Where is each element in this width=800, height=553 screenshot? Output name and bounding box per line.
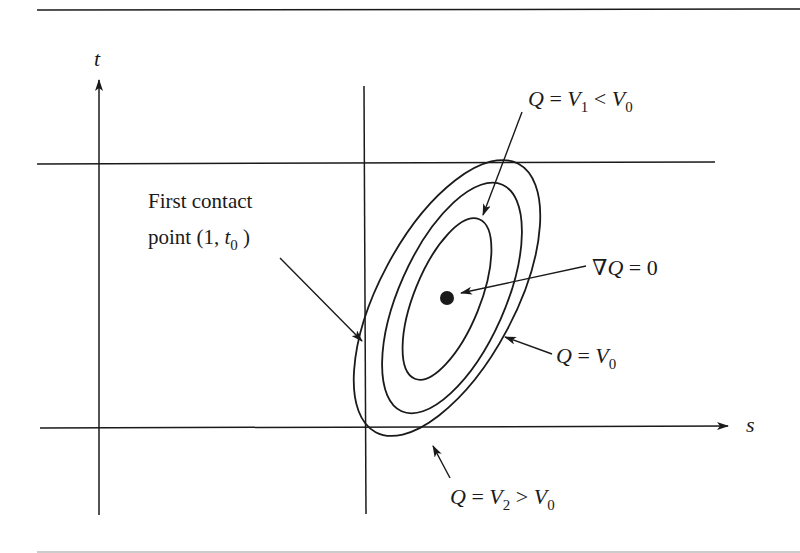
v0-arrow [505, 337, 552, 354]
gradient-zero-label: ∇Q = 0 [592, 255, 658, 280]
vertical-line-s1 [364, 86, 366, 514]
s-axis-label: s [746, 412, 755, 437]
contour-diagram: t s First contact point (1, t0 ) Q = V1 … [0, 0, 800, 553]
t-axis-label: t [94, 46, 101, 71]
v0-contour-label: Q = V0 [556, 343, 616, 372]
top-border-line [37, 9, 800, 10]
first-contact-label-line1: First contact [148, 189, 253, 213]
gradient-arrow [461, 266, 586, 293]
v2-contour-label: Q = V2 > V0 [450, 484, 555, 513]
v1-contour-label: Q = V1 < V0 [528, 86, 633, 115]
s-axis [40, 426, 728, 428]
first-contact-arrow [280, 258, 362, 341]
v2-arrow [433, 446, 450, 478]
first-contact-label-line2: point (1, t0 ) [148, 225, 250, 253]
upper-horizontal-line [37, 162, 715, 164]
minimum-point [440, 291, 454, 305]
